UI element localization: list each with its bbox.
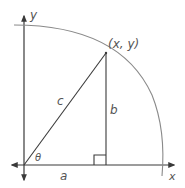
leg-a-label: a (60, 169, 67, 183)
hypotenuse-label: c (57, 94, 64, 108)
y-axis-label: y (29, 8, 38, 22)
point-label: (x, y) (108, 37, 139, 51)
angle-theta-label: θ (35, 152, 41, 163)
x-axis-label: x (168, 170, 176, 183)
unit-circle-diagram: y x (x, y) c b a θ (0, 0, 185, 188)
right-angle-marker (94, 155, 106, 165)
hypotenuse-c (24, 53, 106, 165)
point-marker (105, 52, 107, 54)
leg-b-label: b (110, 103, 118, 117)
